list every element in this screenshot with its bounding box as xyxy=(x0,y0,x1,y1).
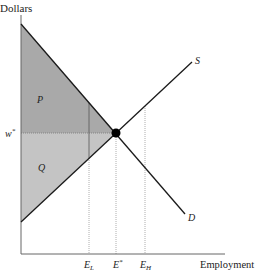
wage-label: w* xyxy=(5,127,16,139)
labor-market-diagram: Dollars Employment S D P Q w* EL E* EH xyxy=(0,0,256,272)
y-axis-label: Dollars xyxy=(0,2,32,14)
region-p-label: P xyxy=(36,94,43,105)
demand-label: D xyxy=(187,212,196,223)
el-label: EL xyxy=(83,259,94,272)
supply-label: S xyxy=(195,55,200,66)
estar-label: E* xyxy=(112,258,123,270)
x-axis-label: Employment xyxy=(200,259,254,270)
eh-label: EH xyxy=(139,259,152,272)
equilibrium-point xyxy=(112,129,121,138)
region-q-label: Q xyxy=(38,162,46,173)
